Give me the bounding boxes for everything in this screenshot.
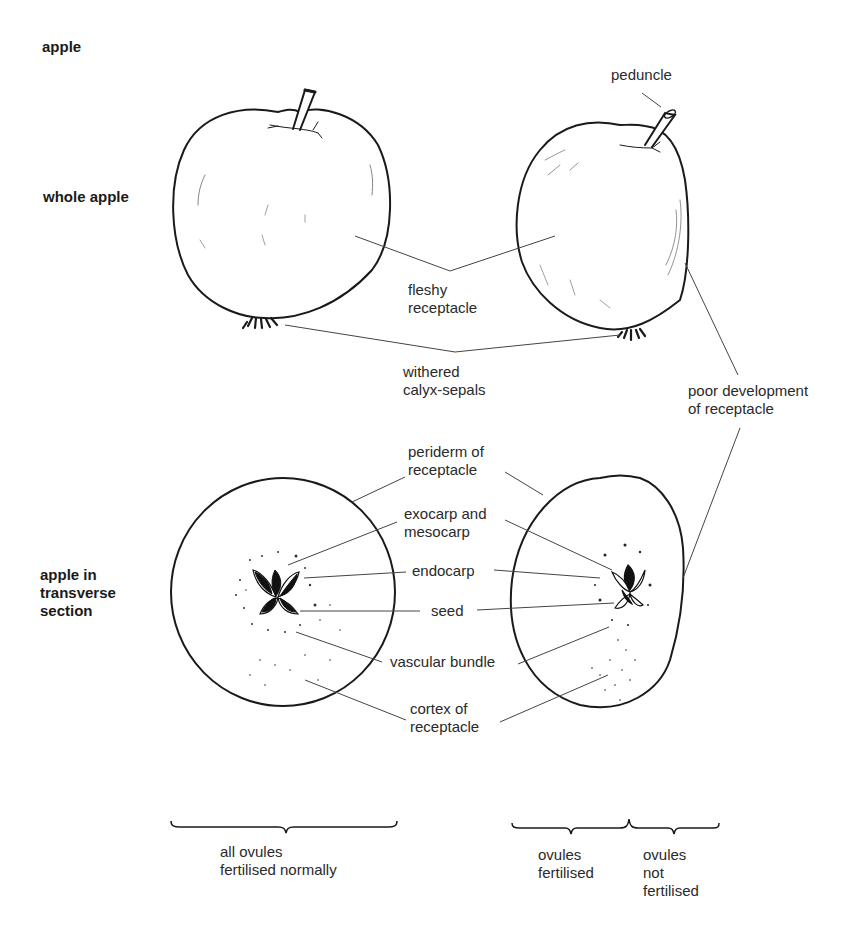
label-withered-calyx-sepals: withered calyx-sepals	[403, 363, 486, 399]
whole-apple-normal	[173, 90, 390, 328]
label-exocarp-mesocarp: exocarp and mesocarp	[404, 505, 487, 541]
label-peduncle: peduncle	[611, 66, 672, 84]
section-apple-poor	[511, 475, 684, 707]
bracket-label-all-fertilised: all ovules fertilised normally	[220, 843, 337, 879]
braces	[171, 819, 719, 834]
bracket-label-ovules-fertilised: ovules fertilised	[538, 846, 594, 882]
label-cortex: cortex of receptacle	[410, 700, 479, 736]
row-label-whole-apple: whole apple	[43, 188, 129, 206]
section-apple-normal	[171, 478, 395, 706]
bracket-label-ovules-not-fertilised: ovules not fertilised	[643, 846, 699, 900]
label-endocarp: endocarp	[412, 562, 475, 580]
row-label-transverse-section: apple in transverse section	[40, 566, 116, 620]
label-periderm: periderm of receptacle	[408, 443, 484, 479]
label-vascular-bundle: vascular bundle	[390, 653, 495, 671]
whole-apple-poor	[517, 108, 689, 340]
section-title: apple	[42, 38, 81, 56]
label-poor-development: poor development of receptacle	[688, 382, 808, 418]
label-fleshy-receptacle: fleshy receptacle	[408, 281, 477, 317]
label-seed: seed	[431, 602, 464, 620]
apple-diagram: apple whole apple apple in transverse se…	[0, 0, 855, 939]
